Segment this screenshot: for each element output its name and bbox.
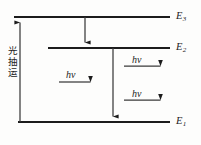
energy-level-label-e2-base: E <box>176 41 183 52</box>
photon-label-right-lower: hν <box>132 89 141 99</box>
energy-level-label-e2-subscript: 2 <box>183 46 187 54</box>
photon-label-left: hν <box>66 70 75 80</box>
photon-label-right-upper: hν <box>132 55 141 65</box>
optical-pump-label: 光抽运 <box>7 45 18 78</box>
energy-level-label-e3-base: E <box>176 10 183 21</box>
energy-level-label-e2: E2 <box>176 42 186 53</box>
energy-level-diagram: E3 E2 E1 光抽运 hν hν hν <box>0 0 201 145</box>
energy-level-label-e3-subscript: 3 <box>183 15 187 23</box>
energy-level-label-e1-subscript: 1 <box>183 120 187 128</box>
energy-level-label-e1: E1 <box>176 116 186 127</box>
energy-level-label-e1-base: E <box>176 115 183 126</box>
diagram-canvas <box>0 0 201 145</box>
energy-level-label-e3: E3 <box>176 11 186 22</box>
